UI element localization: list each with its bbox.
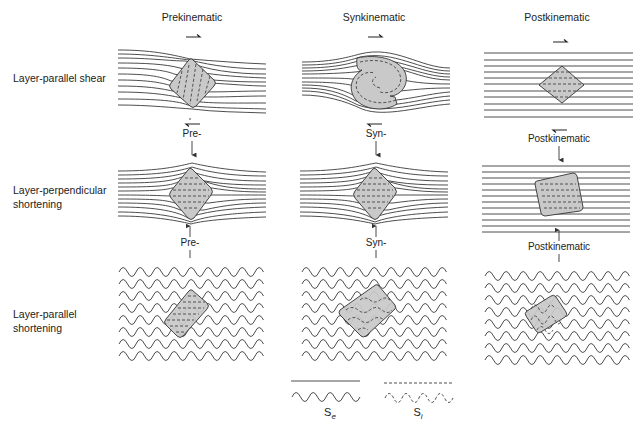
panel-prekinematic-perpendicular bbox=[118, 163, 266, 224]
panel-postkinematic-perpendicular bbox=[482, 166, 630, 232]
shear-arrow-top-icon bbox=[553, 40, 567, 43]
shear-arrow-bottom-icon bbox=[186, 124, 200, 127]
panel-postkinematic-parallel-shortening bbox=[485, 272, 630, 365]
legend-internal-foliation bbox=[384, 383, 454, 403]
porphyroblast-shape bbox=[351, 57, 406, 109]
panel-postkinematic-shear bbox=[484, 40, 633, 133]
panel-synkinematic-parallel-shortening bbox=[302, 268, 447, 361]
external-foliation-wave bbox=[292, 393, 360, 402]
shear-arrow-bottom-icon bbox=[368, 124, 382, 127]
porphyroblast-shape bbox=[535, 173, 583, 216]
legend bbox=[291, 381, 454, 403]
panel-synkinematic-shear bbox=[302, 35, 450, 127]
panel-prekinematic-parallel-shortening bbox=[119, 268, 264, 361]
shear-arrow-bottom-icon bbox=[553, 130, 567, 133]
porphyroblast-diagram bbox=[0, 0, 643, 424]
porphyroblast-shape bbox=[525, 295, 567, 333]
shear-arrow-top-icon bbox=[368, 35, 382, 38]
porphyroblast-shape bbox=[165, 290, 209, 338]
legend-external-foliation bbox=[291, 381, 360, 402]
porphyroblast-shape bbox=[339, 285, 396, 337]
panels bbox=[118, 35, 633, 403]
internal-foliation-wave bbox=[385, 394, 453, 403]
panel-synkinematic-perpendicular bbox=[300, 163, 448, 224]
shear-arrow-top-icon bbox=[186, 35, 200, 38]
porphyroblast-shape bbox=[170, 59, 216, 108]
panel-prekinematic-shear bbox=[118, 35, 266, 127]
